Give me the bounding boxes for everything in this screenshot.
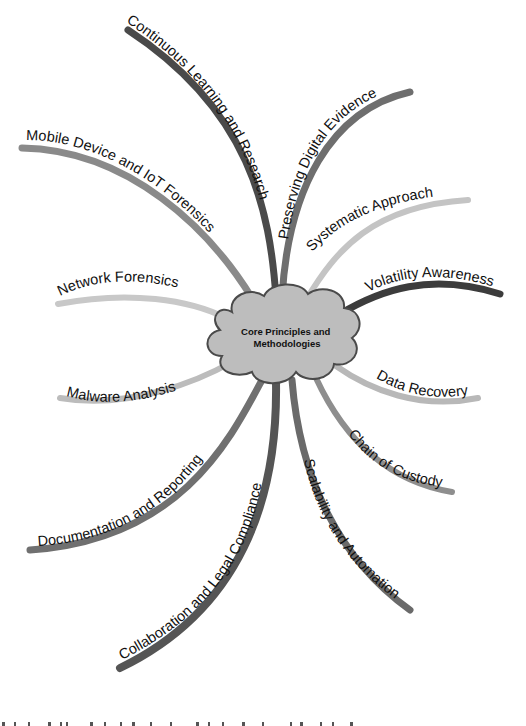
branch-label: Network Forensics bbox=[55, 268, 181, 298]
caption-glyph-fragment bbox=[290, 722, 292, 726]
branch-label-text: Network Forensics bbox=[55, 268, 181, 298]
caption-glyph-fragment bbox=[2, 722, 5, 726]
branch-collaboration-legal: Collaboration and Legal Compliance bbox=[116, 382, 276, 668]
caption-glyph-fragment bbox=[350, 722, 353, 726]
branch-line bbox=[30, 380, 262, 550]
caption-glyph-fragment bbox=[242, 722, 245, 726]
branch-label-text: Scalability and Automation bbox=[301, 457, 403, 601]
caption-glyph-fragment bbox=[222, 722, 224, 726]
caption-glyph-fragment bbox=[48, 722, 51, 726]
branch-scalability-automation: Scalability and Automation bbox=[292, 380, 410, 610]
branch-network-forensics: Network Forensics bbox=[55, 268, 226, 318]
branch-label-text: Systematic Approach bbox=[303, 184, 434, 254]
caption-glyph-fragment bbox=[132, 722, 135, 726]
branch-line bbox=[292, 380, 410, 610]
caption-glyph-fragment bbox=[208, 722, 210, 726]
caption-glyph-fragment bbox=[120, 722, 122, 726]
caption-glyph-fragment bbox=[14, 722, 16, 726]
branch-preserving-evidence: Preserving Digital Evidence bbox=[275, 84, 410, 298]
center-title-line-2: Methodologies bbox=[253, 338, 320, 349]
branch-label: Documentation and Reporting bbox=[37, 451, 205, 549]
branch-label: Malware Analysis bbox=[65, 378, 177, 405]
caption-glyph-fragment bbox=[66, 722, 68, 726]
branch-label-text: Chain of Custody bbox=[346, 426, 445, 490]
caption-glyph-fragment bbox=[170, 722, 172, 726]
branch-label-text: Malware Analysis bbox=[65, 378, 177, 405]
branch-label: Systematic Approach bbox=[303, 184, 434, 254]
branch-data-recovery: Data Recovery bbox=[336, 366, 478, 402]
mind-map-diagram: Continuous Learning and ResearchPreservi… bbox=[0, 0, 526, 726]
branch-volatility-awareness: Volatility Awareness bbox=[340, 264, 500, 314]
branch-label: Chain of Custody bbox=[346, 426, 445, 490]
branch-label-text: Documentation and Reporting bbox=[37, 451, 205, 549]
caption-glyph-fragment bbox=[300, 722, 303, 726]
branch-line bbox=[340, 284, 500, 314]
branch-documentation-reporting: Documentation and Reporting bbox=[30, 380, 262, 550]
caption-glyph-fragment bbox=[320, 722, 322, 726]
svg-text:Core Principles and Meth: Core Principles and Methodologies bbox=[241, 326, 333, 349]
caption-glyph-fragment bbox=[90, 722, 93, 726]
caption-glyph-fragment bbox=[332, 722, 334, 726]
caption-glyph-fragment bbox=[28, 722, 30, 726]
branch-malware-analysis: Malware Analysis bbox=[60, 362, 232, 405]
caption-glyph-fragment bbox=[60, 722, 62, 726]
caption-glyph-fragment bbox=[196, 722, 199, 726]
caption-glyph-fragment bbox=[262, 722, 264, 726]
caption-glyph-fragment bbox=[150, 722, 152, 726]
branch-continuous-learning: Continuous Learning and Research bbox=[124, 11, 276, 298]
caption-glyph-fragment bbox=[104, 722, 106, 726]
center-title-line-1: Core Principles and bbox=[241, 326, 330, 337]
branch-label: Scalability and Automation bbox=[301, 457, 403, 601]
branch-line bbox=[58, 297, 226, 318]
cut-off-caption bbox=[0, 719, 526, 726]
